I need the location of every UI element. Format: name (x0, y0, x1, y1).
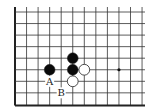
point-label-a: A (45, 76, 54, 87)
white-stone-icon (79, 64, 90, 75)
go-board-diagram: AB (0, 0, 156, 112)
star-point-icon (117, 68, 120, 71)
point-labels: AB (45, 76, 66, 99)
white-stone-icon (67, 76, 78, 87)
black-stone-icon (67, 64, 78, 75)
black-stone-icon (67, 53, 78, 64)
point-label-b: B (58, 87, 65, 98)
board-grid (15, 7, 145, 105)
star-points (117, 68, 120, 71)
black-stone-icon (44, 64, 55, 75)
